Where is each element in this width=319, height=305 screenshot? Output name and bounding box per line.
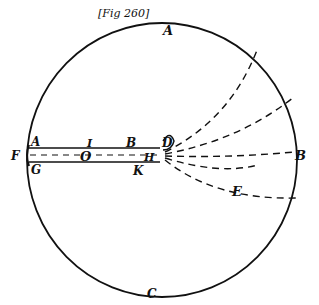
left-edge-bulge bbox=[27, 145, 29, 166]
label-K: K bbox=[132, 164, 144, 178]
label-D: D bbox=[161, 136, 173, 150]
ray-to-upper-right bbox=[165, 97, 294, 154]
ray-middle bbox=[165, 158, 258, 169]
label-O: O bbox=[80, 149, 92, 164]
label-F: F bbox=[10, 149, 21, 163]
label-H: H bbox=[143, 151, 155, 164]
figure-caption: [Fig 260] bbox=[98, 7, 150, 20]
label-A-top: A bbox=[161, 23, 173, 38]
label-B-tube: B bbox=[125, 136, 136, 150]
label-B-right: B bbox=[294, 148, 306, 163]
label-E: E bbox=[231, 184, 243, 199]
ray-to-B bbox=[165, 152, 294, 157]
label-C-bottom: C bbox=[147, 287, 157, 301]
circle-outline bbox=[27, 23, 297, 297]
ray-to-E bbox=[165, 160, 296, 198]
label-G-tube: G bbox=[31, 163, 41, 177]
ray-to-top bbox=[165, 50, 257, 152]
optics-diagram: [Fig 260] A C F A G I O B H K D B E bbox=[0, 0, 319, 305]
label-A-tube: A bbox=[30, 135, 40, 149]
